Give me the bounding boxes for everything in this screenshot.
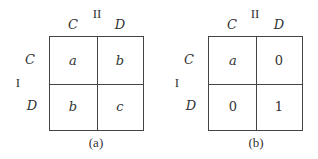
cell-cc: a xyxy=(229,53,237,68)
row-label-c: C xyxy=(184,53,194,67)
col-label-c: C xyxy=(68,18,78,32)
cell-dc: b xyxy=(69,99,77,114)
payoff-matrix xyxy=(49,36,144,131)
cell-cc: a xyxy=(69,53,77,68)
col-player-label: II xyxy=(93,7,102,21)
col-label-c: C xyxy=(227,18,237,32)
cell-cd: b xyxy=(116,53,124,68)
row-label-c: C xyxy=(25,53,35,67)
row-player-label: I xyxy=(175,76,179,90)
row-label-d: D xyxy=(186,99,196,113)
row-label-d: D xyxy=(27,99,37,113)
col-player-label: II xyxy=(251,7,260,21)
panel-caption: (b) xyxy=(248,135,263,151)
grid-divider-horizontal xyxy=(50,84,143,85)
cell-dc: 0 xyxy=(229,99,237,114)
row-player-label: I xyxy=(16,76,20,90)
cell-dd: 1 xyxy=(275,99,283,114)
col-label-d: D xyxy=(274,18,284,32)
cell-dd: c xyxy=(116,99,123,114)
panel-caption: (a) xyxy=(89,135,103,151)
cell-cd: 0 xyxy=(275,53,283,68)
col-label-d: D xyxy=(115,18,125,32)
grid-divider-horizontal xyxy=(209,84,302,85)
payoff-matrix xyxy=(208,36,303,131)
